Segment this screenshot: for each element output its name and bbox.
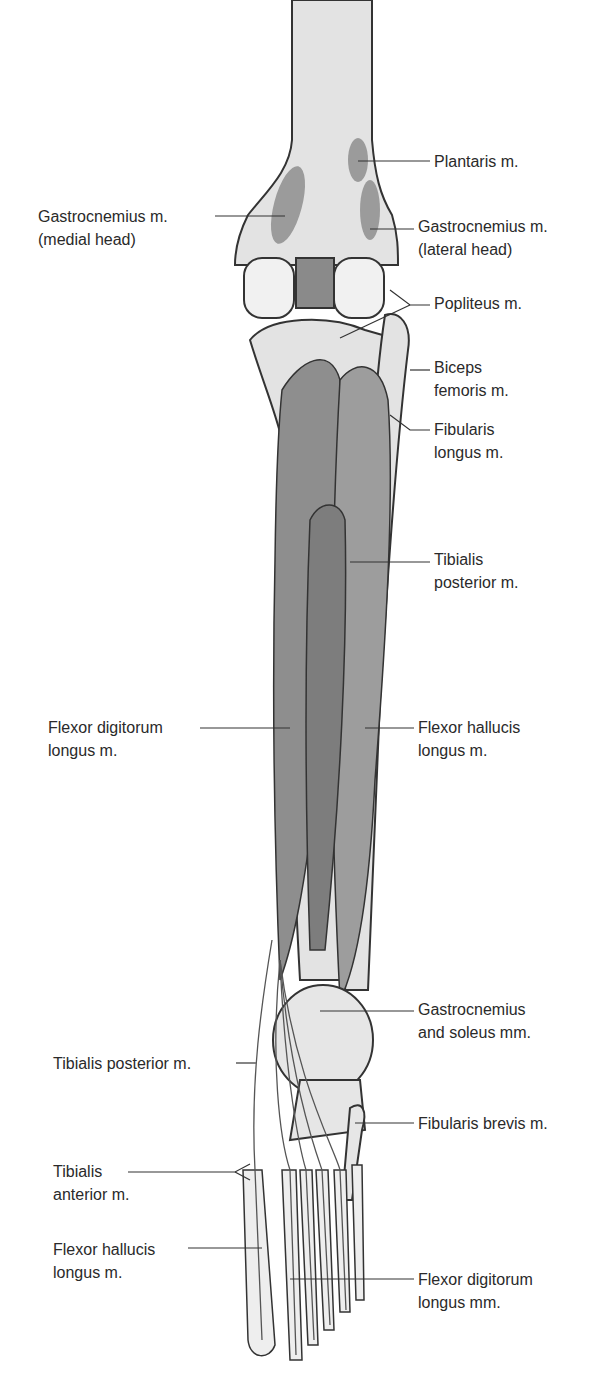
label-gastrocnemius-soleus: Gastrocnemius and soleus mm. xyxy=(418,998,531,1044)
femoral-condyles xyxy=(244,258,384,318)
label-gastrocnemius-medial-head: Gastrocnemius m. (medial head) xyxy=(38,205,168,251)
label-gastrocnemius-lateral-head: Gastrocnemius m. (lateral head) xyxy=(418,215,548,261)
label-plantaris: Plantaris m. xyxy=(434,150,518,173)
label-tibialis-anterior: Tibialis anterior m. xyxy=(53,1160,129,1206)
label-popliteus: Popliteus m. xyxy=(434,292,522,315)
label-flexor-hallucis-longus-upper: Flexor hallucis longus m. xyxy=(418,716,520,762)
label-flexor-digitorum-longus: Flexor digitorum longus m. xyxy=(48,716,163,762)
label-flexor-hallucis-longus-lower: Flexor hallucis longus m. xyxy=(53,1238,155,1284)
label-tibialis-posterior-lower: Tibialis posterior m. xyxy=(53,1052,191,1075)
label-biceps-femoris: Biceps femoris m. xyxy=(434,356,509,402)
label-flexor-digitorum-longus-mm: Flexor digitorum longus mm. xyxy=(418,1268,533,1314)
label-fibularis-longus: Fibularis longus m. xyxy=(434,418,503,464)
label-tibialis-posterior-upper: Tibialis posterior m. xyxy=(434,548,518,594)
label-fibularis-brevis: Fibularis brevis m. xyxy=(418,1112,548,1135)
